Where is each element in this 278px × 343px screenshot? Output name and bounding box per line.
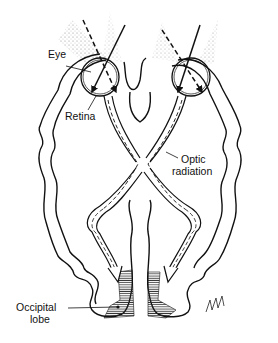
retina-leader-line bbox=[88, 96, 96, 110]
optic-radiations bbox=[87, 206, 200, 282]
label-occipital-line1: Occipital bbox=[16, 302, 56, 313]
occipital-region-right bbox=[148, 272, 176, 318]
brain-visual-pathway-diagram bbox=[0, 0, 278, 343]
label-retina: Retina bbox=[65, 111, 95, 122]
label-optic-radiation-line1: Optic bbox=[181, 154, 206, 165]
optic-radiation-leader-line bbox=[166, 152, 178, 158]
eye-right bbox=[172, 58, 210, 96]
label-optic-radiation-line2: radiation bbox=[172, 166, 212, 177]
occipital-leader-dot bbox=[116, 305, 119, 308]
label-eye: Eye bbox=[48, 49, 66, 60]
label-occipital-line2: lobe bbox=[30, 314, 50, 325]
signature-scribble bbox=[206, 296, 224, 312]
brain-outline bbox=[39, 54, 241, 317]
light-cone-right bbox=[152, 22, 178, 62]
light-cone-right-outer bbox=[198, 20, 218, 64]
optic-pathways bbox=[100, 96, 188, 212]
